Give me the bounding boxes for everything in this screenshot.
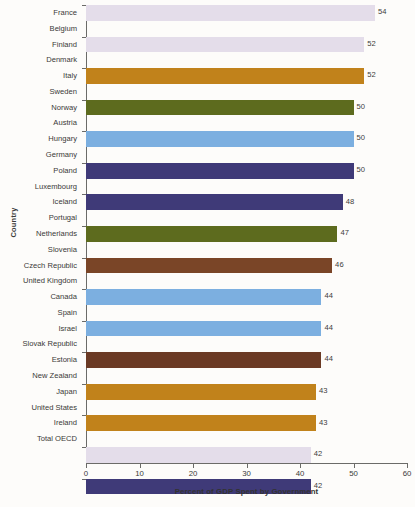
bar-row: 44: [86, 321, 407, 337]
bar-row: 50: [86, 100, 407, 116]
bar: [86, 321, 321, 337]
bar-value-label: 44: [324, 291, 333, 300]
bar-value-label: 50: [357, 165, 366, 174]
bar-row: 52: [86, 37, 407, 53]
y-axis-label-united-states: United States: [0, 400, 82, 416]
bar-value-label: 43: [319, 418, 328, 427]
bar-value-label: 47: [340, 228, 349, 237]
x-axis-tick: [354, 463, 355, 468]
bar-row: 44: [86, 352, 407, 368]
y-axis-label-belgium: Belgium: [0, 21, 82, 37]
y-axis-label-total-oecd: Total OECD: [0, 431, 82, 447]
bar-row: 42: [86, 447, 407, 463]
y-axis-label-spain: Spain: [0, 305, 82, 321]
bar-row: 43: [86, 415, 407, 431]
bar-value-label: 52: [367, 39, 376, 48]
y-axis-label-finland: Finland: [0, 37, 82, 53]
y-axis-label-slovak-republic: Slovak Republic: [0, 336, 82, 352]
x-axis-tick-labels: 0102030405060: [86, 469, 407, 481]
bar: [86, 289, 321, 305]
x-axis-tick: [247, 463, 248, 468]
y-axis-label-netherlands: Netherlands: [0, 226, 82, 242]
y-axis-category-labels: FranceBelgiumFinlandDenmarkItalySwedenNo…: [0, 5, 82, 463]
y-axis-label-france: France: [0, 5, 82, 21]
bar-value-label: 50: [357, 133, 366, 142]
y-axis-label-luxembourg: Luxembourg: [0, 179, 82, 195]
y-axis-label-ireland: Ireland: [0, 415, 82, 431]
bar: [86, 194, 343, 210]
x-axis-tick: [86, 463, 87, 468]
y-axis-label-denmark: Denmark: [0, 52, 82, 68]
y-axis-label-portugal: Portugal: [0, 210, 82, 226]
y-axis-label-israel: Israel: [0, 321, 82, 337]
x-axis-tick-label: 0: [84, 469, 88, 478]
x-axis-tick-label: 10: [135, 469, 144, 478]
x-axis-tick-label: 40: [296, 469, 305, 478]
y-axis-label-canada: Canada: [0, 289, 82, 305]
bar-value-label: 52: [367, 70, 376, 79]
bar-row: 46: [86, 258, 407, 274]
y-axis-label-hungary: Hungary: [0, 131, 82, 147]
bar: [86, 37, 364, 53]
bar-value-label: 44: [324, 354, 333, 363]
bar-value-label: 46: [335, 260, 344, 269]
bar: [86, 68, 364, 84]
bar: [86, 131, 354, 147]
bar: [86, 100, 354, 116]
x-axis-tick: [140, 463, 141, 468]
y-axis-label-austria: Austria: [0, 115, 82, 131]
y-axis-label-poland: Poland: [0, 163, 82, 179]
bar-value-label: 42: [314, 449, 323, 458]
bar-row: 48: [86, 194, 407, 210]
bar-row: 50: [86, 131, 407, 147]
bar-row: 43: [86, 384, 407, 400]
bar: [86, 258, 332, 274]
bar-value-label: 50: [357, 102, 366, 111]
bar: [86, 384, 316, 400]
bar-chart: Country FranceBelgiumFinlandDenmarkItaly…: [0, 0, 415, 507]
y-axis-label-iceland: Iceland: [0, 194, 82, 210]
y-axis-label-new-zealand: New Zealand: [0, 368, 82, 384]
x-axis-title: Percent of GDP Spent by Government: [86, 487, 407, 496]
x-axis-tick-label: 50: [349, 469, 358, 478]
bar-value-label: 48: [346, 197, 355, 206]
bar-row: 47: [86, 226, 407, 242]
bar: [86, 352, 321, 368]
bar-value-label: 54: [378, 7, 387, 16]
bar: [86, 415, 316, 431]
bar-value-label: 43: [319, 386, 328, 395]
x-axis-tick: [193, 463, 194, 468]
y-axis-label-germany: Germany: [0, 147, 82, 163]
x-axis-tick-label: 60: [403, 469, 412, 478]
y-axis-label-united-kingdom: United Kingdom: [0, 273, 82, 289]
bar: [86, 163, 354, 179]
bar-row: 54: [86, 5, 407, 21]
y-axis-label-slovenia: Slovenia: [0, 242, 82, 258]
bar: [86, 5, 375, 21]
bar-row: 50: [86, 163, 407, 179]
x-axis-tick-label: 30: [242, 469, 251, 478]
y-axis-label-japan: Japan: [0, 384, 82, 400]
y-axis-label-italy: Italy: [0, 68, 82, 84]
bar: [86, 447, 311, 463]
x-axis-tick-label: 20: [189, 469, 198, 478]
bar-row: 44: [86, 289, 407, 305]
x-axis-tick: [300, 463, 301, 468]
plot-area: 5452525050504847464444444343424241414141…: [86, 5, 407, 463]
bar-row: 52: [86, 68, 407, 84]
bar: [86, 226, 337, 242]
bar-value-label: 44: [324, 323, 333, 332]
x-axis-tick: [407, 463, 408, 468]
y-axis-label-estonia: Estonia: [0, 352, 82, 368]
y-axis-label-norway: Norway: [0, 100, 82, 116]
y-axis-label-sweden: Sweden: [0, 84, 82, 100]
y-axis-label-czech-republic: Czech Republic: [0, 258, 82, 274]
